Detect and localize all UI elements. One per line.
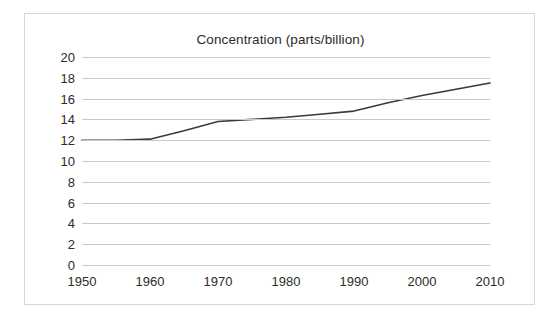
gridline-y-8: 8 xyxy=(82,182,490,183)
y-axis-tick-label: 16 xyxy=(61,91,75,106)
x-axis-tick-label: 1960 xyxy=(136,274,165,289)
y-axis-tick-label: 8 xyxy=(68,174,75,189)
chart-frame: Concentration (parts/billion) 0246810121… xyxy=(24,13,535,305)
y-axis-tick-label: 10 xyxy=(61,154,75,169)
gridline-y-20: 20 xyxy=(82,57,490,58)
y-axis-tick-label: 12 xyxy=(61,133,75,148)
plot-area: 0246810121416182019501960197019801990200… xyxy=(82,57,490,265)
gridline-y-12: 12 xyxy=(82,140,490,141)
gridline-y-6: 6 xyxy=(82,203,490,204)
y-axis-tick-label: 20 xyxy=(61,50,75,65)
x-axis-tick-label: 2010 xyxy=(476,274,505,289)
gridline-y-16: 16 xyxy=(82,99,490,100)
y-axis-tick-label: 0 xyxy=(68,258,75,273)
y-axis-tick-label: 4 xyxy=(68,216,75,231)
gridline-y-14: 14 xyxy=(82,119,490,120)
x-axis-tick-label: 2000 xyxy=(408,274,437,289)
y-axis-tick-label: 14 xyxy=(61,112,75,127)
gridline-y-2: 2 xyxy=(82,244,490,245)
x-axis-tick-label: 1990 xyxy=(340,274,369,289)
gridline-y-18: 18 xyxy=(82,78,490,79)
gridline-y-10: 10 xyxy=(82,161,490,162)
chart-figure: Concentration (parts/billion) 0246810121… xyxy=(0,0,560,322)
gridline-y-4: 4 xyxy=(82,223,490,224)
x-axis-tick-label: 1980 xyxy=(272,274,301,289)
y-axis-tick-label: 18 xyxy=(61,70,75,85)
y-axis-tick-label: 6 xyxy=(68,195,75,210)
gridline-y-0: 0 xyxy=(82,265,490,266)
chart-title: Concentration (parts/billion) xyxy=(25,32,536,47)
x-axis-tick-label: 1970 xyxy=(204,274,233,289)
x-axis-tick-label: 1950 xyxy=(68,274,97,289)
y-axis-tick-label: 2 xyxy=(68,237,75,252)
